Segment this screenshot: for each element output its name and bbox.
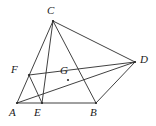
vertex-label-a: A bbox=[9, 107, 16, 118]
vertex-point-c bbox=[52, 20, 54, 22]
segment-F-D bbox=[29, 62, 135, 75]
vertex-point-a bbox=[16, 102, 18, 104]
segment-A-D bbox=[17, 62, 135, 103]
segment-C-D bbox=[53, 21, 135, 62]
geometry-figure: ABCDEFG bbox=[0, 0, 156, 126]
vertex-point-f bbox=[28, 74, 30, 76]
vertex-label-e: E bbox=[34, 107, 41, 118]
vertex-point-e bbox=[41, 102, 43, 104]
vertex-point-g bbox=[67, 79, 69, 81]
vertex-label-d: D bbox=[140, 54, 148, 65]
segment-C-B bbox=[53, 21, 96, 103]
vertex-label-g: G bbox=[60, 65, 68, 76]
vertex-label-c: C bbox=[47, 5, 54, 16]
vertex-point-b bbox=[95, 102, 97, 104]
segment-F-E bbox=[29, 75, 42, 103]
geometry-canvas bbox=[0, 0, 156, 126]
vertex-label-b: B bbox=[90, 107, 97, 118]
segment-B-D bbox=[96, 62, 135, 103]
segment-layer bbox=[17, 21, 135, 103]
vertex-point-d bbox=[134, 61, 136, 63]
vertex-label-f: F bbox=[11, 64, 18, 75]
